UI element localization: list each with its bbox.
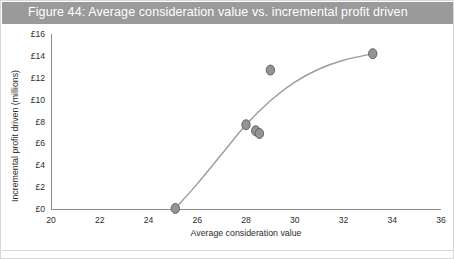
y-tick-label: £16: [31, 29, 46, 39]
data-point-marker: [369, 49, 377, 59]
y-tick-label: £2: [35, 182, 45, 192]
y-tick-label: £8: [35, 117, 45, 127]
bottom-divider: [2, 250, 454, 251]
data-point-marker: [242, 120, 250, 130]
y-tick-label: £12: [31, 73, 46, 83]
x-tick-label: 20: [46, 215, 56, 225]
x-tick-label: 30: [290, 215, 300, 225]
x-axis-title: Average consideration value: [191, 228, 302, 238]
trend-curve: [175, 54, 372, 209]
scatter-chart: £0£2£4£6£8£10£12£14£16 20222426283032343…: [1, 24, 454, 259]
data-point-marker: [171, 203, 179, 213]
y-tick-label: £10: [31, 95, 46, 105]
figure-title-bar: Figure 44: Average consideration value v…: [2, 2, 454, 24]
x-axis-tick-labels: 202224262830323436: [46, 215, 446, 225]
y-tick-label: £6: [35, 138, 45, 148]
x-tick-label: 22: [95, 215, 105, 225]
x-tick-label: 36: [436, 215, 446, 225]
plot-area: £0£2£4£6£8£10£12£14£16 20222426283032343…: [1, 24, 454, 259]
figure-container: Figure 44: Average consideration value v…: [0, 0, 454, 259]
x-tick-label: 26: [192, 215, 202, 225]
y-tick-label: £0: [35, 204, 45, 214]
x-tick-label: 24: [144, 215, 154, 225]
figure-title: Figure 44: Average consideration value v…: [28, 5, 408, 19]
x-tick-label: 34: [387, 215, 397, 225]
y-tick-label: £14: [31, 51, 46, 61]
y-axis-tick-labels: £0£2£4£6£8£10£12£14£16: [31, 29, 46, 214]
y-axis-title: Incremental profit driven (millions): [10, 70, 20, 202]
x-tick-label: 32: [339, 215, 349, 225]
x-tick-label: 28: [241, 215, 251, 225]
data-point-marker: [266, 65, 274, 75]
data-point-marker: [255, 129, 263, 139]
y-tick-label: £4: [35, 160, 45, 170]
data-point-markers: [171, 49, 377, 214]
